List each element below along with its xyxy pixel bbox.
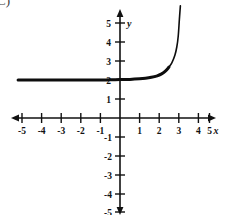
y-axis-label: y	[126, 18, 132, 29]
x-tick-label--2: -2	[77, 126, 85, 136]
y-tick-label--3: -3	[104, 171, 112, 181]
x-tick-label--5: -5	[18, 126, 26, 136]
exponential-curve-tail-weight	[18, 67, 169, 80]
y-tick-label-3: 3	[106, 57, 111, 67]
axes-group	[11, 9, 216, 215]
y-tick-label-4: 4	[106, 38, 111, 48]
curve-group	[18, 6, 180, 80]
x-tick-label-2: 2	[157, 126, 162, 136]
x-tick-label--3: -3	[57, 126, 65, 136]
y-tick-label--2: -2	[104, 152, 112, 162]
x-axis-label: x	[213, 125, 219, 136]
y-tick-label--5: -5	[104, 208, 112, 216]
y-tick-labels: 5 4 3 2 1 -1 -2 -3 -4 -5	[104, 19, 112, 216]
x-tick-label-1: 1	[137, 126, 142, 136]
y-tick-label-5: 5	[106, 19, 111, 29]
x-tick-labels: -5 -4 -3 -2 -1 1 2 3 4 5	[18, 126, 212, 136]
y-tick-label-1: 1	[106, 95, 111, 105]
x-tick-label--4: -4	[38, 126, 46, 136]
x-tick-label-4: 4	[196, 126, 201, 136]
y-axis-down-arrow-icon	[117, 207, 124, 215]
y-tick-label--4: -4	[104, 190, 112, 200]
y-axis-up-arrow-icon	[117, 9, 124, 17]
y-tick-label--1: -1	[104, 133, 112, 143]
x-axis-left-arrow-icon	[11, 115, 19, 122]
x-tick-label-5: 5	[207, 126, 212, 136]
x-tick-label-3: 3	[176, 126, 181, 136]
graph-figure: -5 -4 -3 -2 -1 1 2 3 4 5 5 4 3 2 1 -1 -2…	[0, 0, 227, 215]
exponential-curve	[18, 6, 180, 80]
